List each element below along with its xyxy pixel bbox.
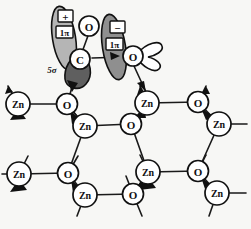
atom-o-right-label: O [129, 51, 138, 63]
left-lobe-name: 1π [60, 28, 70, 38]
lattice-atom-o-5: O [188, 92, 209, 113]
lattice-atom-zn-2: Zn [73, 114, 97, 138]
lattice-atom-zn-7: Zn [7, 162, 31, 186]
sigma-orbital-label: 5σ [47, 65, 58, 75]
figure-canvas: + 1π − 1π 5σ O C O ZnOZn [0, 0, 251, 229]
atom-label: O [194, 166, 203, 178]
bond-arrowheads [5, 86, 210, 95]
atom-label: Zn [211, 188, 224, 199]
atom-label: Zn [79, 121, 92, 132]
atom-label: Zn [141, 98, 154, 109]
lattice-atom-zn-11: Zn [136, 160, 160, 184]
zno-co2-diagram: + 1π − 1π 5σ O C O ZnOZn [0, 0, 251, 229]
atom-label: Zn [142, 167, 155, 178]
atom-o-right: O [123, 46, 143, 66]
lattice-atom-o-8: O [58, 163, 79, 184]
atom-label: Zn [12, 99, 25, 110]
lattice-atom-zn-13: Zn [205, 181, 229, 205]
atom-label: O [63, 99, 72, 111]
atom-label: O [194, 97, 203, 109]
atom-c: C [70, 49, 90, 69]
lattice-atom-zn-6: Zn [207, 112, 231, 136]
atom-c-label: C [76, 54, 84, 66]
lattice-atom-zn-4: Zn [135, 91, 159, 115]
atom-o-top: O [79, 16, 99, 36]
lattice-atom-o-12: O [188, 161, 209, 182]
right-lobe-name: 1π [110, 40, 120, 50]
left-lobe-sign: + [62, 11, 68, 23]
lattice-atom-o-3: O [121, 114, 142, 135]
lattice-atoms: ZnOZnOZnOZnZnOZnOZnOZn [6, 91, 231, 207]
atom-label: Zn [79, 190, 92, 201]
atom-label: Zn [13, 169, 26, 180]
lattice-atom-zn-0: Zn [6, 92, 30, 116]
atom-label: O [129, 189, 138, 201]
right-lobe-sign: − [114, 22, 120, 34]
atom-label: O [64, 168, 73, 180]
atom-label: O [127, 119, 136, 131]
atom-label: Zn [213, 119, 226, 130]
lattice-atom-o-1: O [57, 94, 78, 115]
atom-o-top-label: O [85, 21, 94, 33]
wedge-bonds [10, 107, 215, 193]
lattice-atom-o-10: O [123, 184, 144, 205]
lattice-atom-zn-9: Zn [73, 183, 97, 207]
